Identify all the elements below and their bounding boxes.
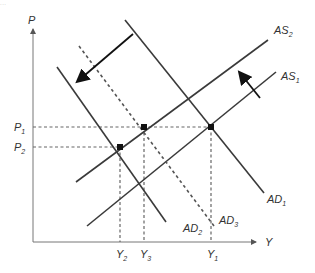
equilibrium-point-3: [141, 124, 147, 130]
p1-label: P1: [14, 121, 25, 135]
as-shift-arrow: [240, 73, 260, 98]
as2-label: AS2: [273, 24, 293, 38]
as2-curve: [76, 40, 268, 182]
y2-label: Y2: [116, 248, 127, 262]
y3-label: Y3: [140, 248, 151, 262]
as1-label: AS1: [280, 70, 300, 84]
ad3-curve: [79, 46, 214, 226]
p2-label: P2: [14, 141, 25, 155]
y-axis-label: P: [28, 14, 36, 26]
y1-label: Y1: [207, 248, 218, 262]
ad3-label: AD3: [218, 214, 238, 228]
ad1-label: AD1: [266, 193, 286, 207]
ad2-label: AD2: [182, 222, 202, 236]
x-axis-label: Y: [265, 236, 273, 248]
ad-shift-arrow: [78, 34, 133, 81]
ad1-curve: [125, 20, 264, 193]
equilibrium-point-2: [117, 144, 123, 150]
ad-as-diagram: P Y P1 P2 Y2 Y3 Y1 AS2 AS1 AD1 AD2 AD3: [0, 0, 315, 273]
equilibrium-point-1: [208, 124, 214, 130]
